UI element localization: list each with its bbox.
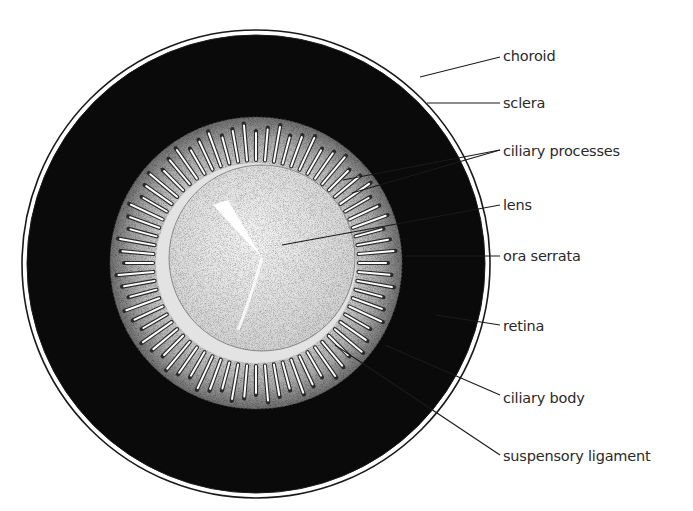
eye-diagram: choroid sclera ciliary processes lens or…: [0, 0, 693, 511]
label-retina: retina: [503, 318, 544, 334]
label-ciliary-processes: ciliary processes: [503, 143, 620, 159]
label-suspensory-ligament: suspensory ligament: [503, 448, 651, 464]
label-ora-serrata: ora serrata: [503, 248, 581, 264]
label-sclera: sclera: [503, 95, 545, 111]
label-choroid: choroid: [503, 48, 555, 64]
lens: [169, 165, 355, 351]
label-lens: lens: [503, 197, 532, 213]
label-ciliary-body: ciliary body: [503, 390, 585, 406]
labels: choroid sclera ciliary processes lens or…: [503, 48, 651, 464]
